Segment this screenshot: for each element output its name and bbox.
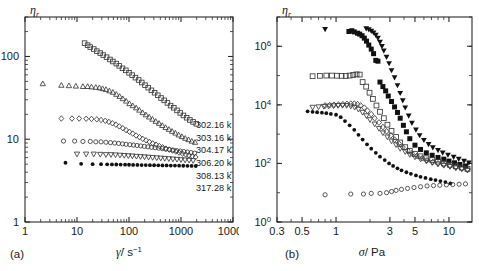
legend-label-2: 304.17 k [196, 145, 232, 155]
panel-a-xlabel: γ̇/ s−1 [116, 245, 142, 259]
series-low-branch [323, 182, 468, 197]
series-304-17-k [59, 116, 198, 160]
legend-label-1: 303.16 k [196, 133, 232, 143]
y-tick-label: 1 [13, 216, 19, 228]
series-306-20-k [61, 139, 196, 155]
panel-a-data-points [40, 41, 198, 168]
series-304-17-k [310, 72, 470, 171]
x-tick-label: 100 [120, 225, 138, 237]
series-317-28-k [306, 109, 453, 185]
x-tick-label: 10000 [218, 225, 239, 237]
y-tick-label: 104 [254, 98, 271, 111]
panel-b-xlabel: σ/ Pa [359, 245, 386, 259]
x-tick-label: 10 [443, 225, 455, 237]
panel-a-svg: 110100100010000110100 302.16 k303.16 k30… [0, 0, 239, 271]
y-tick-label: 100 [1, 50, 19, 62]
panel-b-ticks [277, 17, 472, 222]
panel-b-ylabel: ηr [282, 3, 292, 19]
y-tick-label: 106 [254, 39, 271, 52]
panel-a-ylabel: ηr [30, 3, 40, 19]
panel-b-data-points [306, 26, 472, 197]
x-tick-label: 1 [22, 225, 28, 237]
panel-b: 0.30.513510100102104106 ηr σ/ Pa (b) [240, 0, 479, 271]
x-tick-label: 3 [387, 225, 393, 237]
panel-a-label: (a) [10, 248, 24, 260]
plot-frame [277, 17, 472, 222]
y-tick-label: 10 [7, 133, 19, 145]
panel-a-legend: 302.16 k303.16 k304.17 k306.20 k308.13 k… [196, 120, 232, 193]
figure-container: 110100100010000110100 302.16 k303.16 k30… [0, 0, 479, 271]
series-303-16-k [40, 81, 198, 144]
x-tick-label: 0.3 [269, 225, 284, 237]
legend-label-5: 317.28 k [196, 183, 232, 193]
x-tick-label: 1000 [169, 225, 193, 237]
panel-a-tick-labels: 110100100010000110100 [1, 50, 239, 237]
panel-b-axes [277, 17, 472, 222]
series-317-28-k [64, 161, 198, 168]
legend-label-3: 306.20 k [196, 158, 232, 168]
panel-b-svg: 0.30.513510100102104106 ηr σ/ Pa (b) [240, 0, 479, 271]
x-tick-label: 0.5 [294, 225, 309, 237]
legend-label-0: 302.16 k [196, 120, 232, 130]
x-tick-label: 5 [412, 225, 418, 237]
panel-b-label: (b) [285, 248, 299, 260]
x-tick-label: 1 [333, 225, 339, 237]
panel-a: 110100100010000110100 302.16 k303.16 k30… [0, 0, 239, 271]
y-tick-label: 102 [254, 156, 271, 169]
x-tick-label: 10 [71, 225, 83, 237]
legend-label-4: 308.13 k [196, 171, 232, 181]
